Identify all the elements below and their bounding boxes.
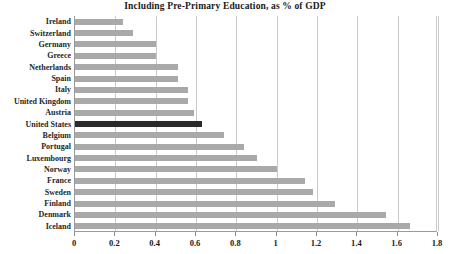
y-axis-label: Ireland (0, 17, 71, 26)
bar-row (75, 84, 436, 95)
bar (75, 41, 156, 47)
y-axis-label: Italy (0, 85, 71, 94)
bar-row (75, 16, 436, 27)
bar-row (75, 96, 436, 107)
bar (75, 189, 313, 195)
bar (75, 19, 123, 25)
x-axis-tick (155, 232, 156, 236)
bar-row (75, 50, 436, 61)
x-axis-tick-label: 1.4 (351, 238, 362, 248)
x-axis-tick (74, 232, 75, 236)
y-axis-label: Austria (0, 108, 71, 117)
y-axis-label: Finland (0, 199, 71, 208)
x-axis-tick (356, 232, 357, 236)
x-axis-tick-label: 0 (72, 238, 76, 248)
y-axis-category-labels: IrelandSwitzerlandGermanyGreeceNetherlan… (0, 16, 71, 232)
y-axis-label: France (0, 176, 71, 185)
bar-row (75, 209, 436, 220)
bar-row (75, 27, 436, 38)
y-axis-label: Iceland (0, 222, 71, 231)
bar-chart: Including Pre-Primary Education, as % of… (0, 0, 450, 254)
x-axis-tick (397, 232, 398, 236)
x-axis-tick (316, 232, 317, 236)
bar-row (75, 73, 436, 84)
y-axis-label: Denmark (0, 210, 71, 219)
bar (75, 110, 194, 116)
bars-container (75, 16, 436, 231)
y-axis-label: Greece (0, 51, 71, 60)
bar (75, 53, 156, 59)
y-axis-label: United Kingdom (0, 97, 71, 106)
bar (75, 121, 202, 127)
bar (75, 223, 410, 229)
x-axis-tick (195, 232, 196, 236)
gridline (438, 16, 439, 231)
y-axis-label: Norway (0, 165, 71, 174)
x-axis-tick-label: 0.6 (190, 238, 201, 248)
bar-row (75, 221, 436, 232)
x-axis: 00.20.40.60.811.21.41.61.8 (74, 232, 438, 254)
bar-row (75, 39, 436, 50)
bar-row (75, 198, 436, 209)
bar (75, 166, 277, 172)
bar-row (75, 164, 436, 175)
bar-row (75, 175, 436, 186)
chart-title: Including Pre-Primary Education, as % of… (0, 1, 450, 11)
y-axis-label: Sweden (0, 188, 71, 197)
bar (75, 132, 224, 138)
bar-row (75, 152, 436, 163)
bar (75, 64, 178, 70)
y-axis-label: Luxembourg (0, 154, 71, 163)
bar-row (75, 187, 436, 198)
x-axis-tick (437, 232, 438, 236)
bar-row (75, 130, 436, 141)
bar-row (75, 61, 436, 72)
x-axis-tick-label: 0.8 (230, 238, 241, 248)
y-axis-label: Switzerland (0, 29, 71, 38)
bar (75, 98, 188, 104)
y-axis-label: Belgium (0, 131, 71, 140)
plot-area (74, 16, 437, 232)
bar (75, 212, 386, 218)
y-axis-label: Spain (0, 74, 71, 83)
x-axis-tick (235, 232, 236, 236)
x-axis-tick-label: 1 (274, 238, 278, 248)
x-axis-tick-label: 0.2 (109, 238, 120, 248)
bar-row (75, 118, 436, 129)
y-axis-label: Portugal (0, 142, 71, 151)
bar (75, 144, 244, 150)
y-axis-label: Germany (0, 40, 71, 49)
y-axis-label: United States (0, 120, 71, 129)
bar-row (75, 107, 436, 118)
x-axis-tick-label: 1.8 (432, 238, 443, 248)
x-axis-tick (276, 232, 277, 236)
y-axis-label: Netherlands (0, 63, 71, 72)
bar (75, 30, 133, 36)
bar (75, 178, 305, 184)
x-axis-tick (114, 232, 115, 236)
bar-row (75, 141, 436, 152)
bar (75, 201, 335, 207)
bar (75, 155, 257, 161)
bar (75, 87, 188, 93)
bar (75, 76, 178, 82)
x-axis-tick-label: 1.6 (391, 238, 402, 248)
x-axis-tick-label: 0.4 (149, 238, 160, 248)
x-axis-tick-label: 1.2 (311, 238, 322, 248)
